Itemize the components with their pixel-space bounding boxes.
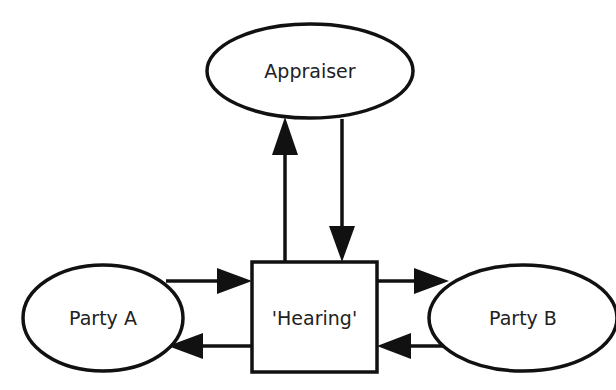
diagram-canvas: Appraiser 'Hearing' Party A Party B: [0, 0, 616, 390]
node-hearing-label: 'Hearing': [272, 307, 357, 329]
node-party-a: Party A: [23, 265, 183, 371]
node-appraiser-label: Appraiser: [264, 60, 355, 82]
arrowhead-left-icon: [377, 333, 411, 359]
node-party-a-label: Party A: [69, 307, 137, 329]
node-party-b: Party B: [429, 265, 616, 371]
arrowhead-down-icon: [329, 226, 355, 262]
edge-hearing-to-appraiser: [272, 117, 298, 262]
arrowhead-up-icon: [272, 117, 298, 155]
edge-party-a-to-hearing: [166, 268, 252, 294]
node-appraiser: Appraiser: [207, 24, 413, 118]
edge-hearing-to-party-a: [168, 333, 252, 359]
node-hearing: 'Hearing': [252, 262, 377, 372]
edge-hearing-to-party-b: [377, 268, 449, 294]
edge-appraiser-to-hearing: [329, 119, 355, 262]
arrowhead-right-icon: [217, 268, 252, 294]
node-party-b-label: Party B: [489, 307, 557, 329]
